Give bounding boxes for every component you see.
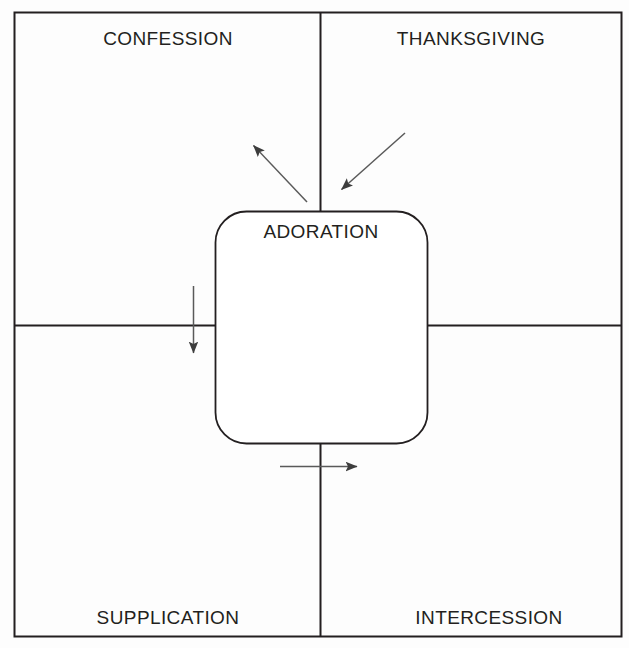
quadrant-bottom-right[interactable] (321, 326, 621, 636)
quadrant-label-top-left: CONFESSION (103, 29, 233, 48)
quadrant-top-right[interactable] (321, 13, 621, 325)
quadrant-bottom-left[interactable] (15, 326, 320, 636)
quadrant-label-top-right: THANKSGIVING (397, 29, 545, 48)
diagram-canvas: CONFESSION THANKSGIVING SUPPLICATION INT… (0, 0, 629, 648)
center-node-label: ADORATION (263, 222, 378, 241)
quadrant-label-bottom-left: SUPPLICATION (97, 608, 240, 627)
quadrant-label-bottom-right: INTERCESSION (415, 608, 562, 627)
quadrant-top-left[interactable] (15, 13, 320, 325)
